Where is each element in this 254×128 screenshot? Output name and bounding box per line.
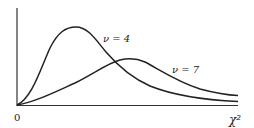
label-nu-7: ν = 7 xyxy=(172,64,200,75)
curve-nu-7 xyxy=(17,59,238,105)
origin-label: 0 xyxy=(14,112,20,123)
label-nu-4: ν = 4 xyxy=(103,33,130,44)
chi-square-chart: ν = 4 ν = 7 0 χ² xyxy=(0,0,254,128)
x-axis-label: χ² xyxy=(228,113,241,127)
